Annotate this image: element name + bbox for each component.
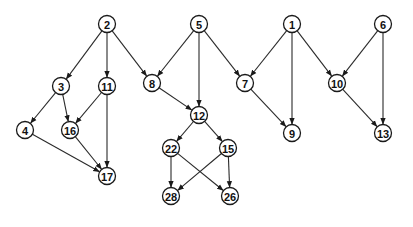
node-label: 10	[331, 78, 343, 90]
edge-6-to-10	[343, 31, 378, 76]
edge-1-to-10	[297, 31, 331, 76]
node-1: 1	[284, 16, 301, 33]
node-26: 26	[222, 188, 239, 205]
node-16: 16	[62, 122, 79, 139]
edge-1-to-7	[251, 31, 287, 76]
node-label: 15	[222, 143, 234, 155]
node-7: 7	[237, 75, 254, 92]
node-label: 28	[165, 191, 177, 203]
edge-4-to-17	[32, 134, 99, 171]
edge-11-to-16	[76, 93, 102, 124]
node-layer: 25163118710416129131722152826	[17, 16, 392, 205]
node-2: 2	[99, 16, 116, 33]
edge-15-to-26	[228, 157, 229, 188]
edge-10-to-13	[343, 89, 377, 126]
node-6: 6	[375, 16, 392, 33]
edge-16-to-17	[75, 137, 101, 169]
node-label: 4	[22, 125, 29, 137]
node-label: 13	[377, 128, 389, 140]
node-label: 26	[224, 191, 236, 203]
edge-3-to-16	[63, 94, 68, 121]
node-label: 9	[289, 128, 295, 140]
node-label: 22	[165, 143, 177, 155]
edge-5-to-8	[158, 31, 194, 76]
edge-3-to-4	[31, 93, 56, 123]
node-4: 4	[17, 122, 34, 139]
edge-7-to-9	[251, 89, 286, 126]
node-label: 6	[380, 19, 386, 31]
node-11: 11	[99, 78, 116, 95]
node-17: 17	[99, 168, 116, 185]
edge-2-to-8	[112, 31, 146, 76]
node-label: 11	[101, 81, 113, 93]
node-8: 8	[144, 75, 161, 92]
node-28: 28	[163, 188, 180, 205]
node-label: 12	[193, 110, 205, 122]
node-13: 13	[375, 125, 392, 142]
node-label: 1	[289, 19, 295, 31]
node-15: 15	[220, 140, 237, 157]
node-label: 16	[64, 125, 76, 137]
edge-8-to-12	[159, 88, 192, 110]
dependency-graph: 25163118710416129131722152826	[0, 0, 413, 227]
node-label: 3	[58, 81, 64, 93]
node-9: 9	[284, 125, 301, 142]
edge-2-to-3	[66, 31, 102, 79]
node-label: 5	[196, 19, 202, 31]
node-10: 10	[329, 75, 346, 92]
node-label: 8	[149, 78, 155, 90]
node-label: 2	[104, 19, 110, 31]
node-label: 7	[242, 78, 248, 90]
node-22: 22	[163, 140, 180, 157]
edge-12-to-22	[177, 122, 194, 142]
edge-12-to-15	[205, 121, 223, 141]
edge-5-to-7	[204, 31, 239, 76]
node-3: 3	[53, 78, 70, 95]
node-12: 12	[191, 107, 208, 124]
node-label: 17	[101, 171, 113, 183]
node-5: 5	[191, 16, 208, 33]
